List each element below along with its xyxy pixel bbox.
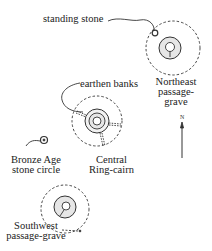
standing-stone-leader (108, 19, 154, 31)
site-plan-diagram: N standing stone Northeast passage- grav… (0, 0, 212, 251)
diagram-graphics: N (0, 0, 212, 251)
label-northeast-passage-grave: Northeast passage- grave (150, 77, 202, 107)
label-southwest-passage-grave: Southwest passage-grave (4, 221, 68, 241)
north-label: N (180, 114, 185, 120)
label-standing-stone: standing stone (43, 14, 103, 24)
label-central-ring-cairn: Central Ring-cairn (84, 155, 139, 175)
label-bronze-age-stone-circle: Bronze Age stone circle (6, 155, 66, 175)
bronze-age-leader (26, 141, 40, 146)
standing-stone-marker (152, 30, 158, 36)
label-earthen-banks: earthen banks (80, 79, 138, 89)
north-arrow-head (181, 122, 184, 128)
